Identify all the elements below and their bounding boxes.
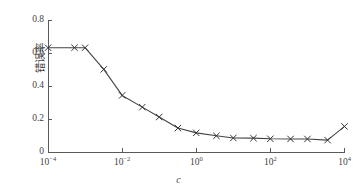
data-point-marker: [119, 92, 125, 98]
y-tick-label: 0: [6, 147, 44, 157]
y-tick-marks: [48, 20, 52, 152]
y-axis-title: 错误率: [32, 22, 48, 94]
x-tick-label: 104: [323, 158, 357, 168]
data-point-marker: [175, 125, 181, 131]
data-point-marker: [156, 114, 162, 120]
data-point-marker: [139, 104, 145, 110]
series-markers: [45, 45, 348, 144]
x-tick-label: 100: [174, 158, 218, 168]
x-tick-marks: [48, 148, 345, 152]
series-line-error-rate: [48, 48, 345, 140]
x-tick-label: 102: [248, 158, 292, 168]
x-tick-label: 10−2: [100, 158, 144, 168]
y-tick-label: 0.2: [6, 114, 44, 124]
x-tick-label: 10−4: [26, 158, 70, 168]
data-point-marker: [341, 123, 347, 129]
x-axis-title: c: [0, 174, 357, 185]
data-series: [45, 45, 348, 144]
chart-figure: 00.20.40.60.8 10−410−2100102104 错误率 c: [0, 0, 357, 194]
data-point-marker: [101, 66, 107, 72]
